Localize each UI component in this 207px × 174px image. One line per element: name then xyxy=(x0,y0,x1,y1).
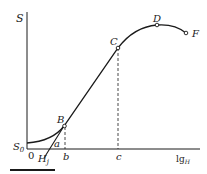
point-b-label: B xyxy=(56,114,64,125)
angle-a-label: a xyxy=(54,138,60,149)
tick-b-label: b xyxy=(63,151,69,162)
x-axis-label: lgH xyxy=(176,154,191,165)
point-f-marker xyxy=(184,31,188,35)
point-d-label: D xyxy=(152,13,161,24)
magnetization-diagram: S S0 0 Hj a b c B C D F lgH xyxy=(0,0,207,174)
footer-bar xyxy=(10,169,55,171)
s0-label: S0 xyxy=(13,141,25,154)
tick-c-label: c xyxy=(116,151,122,162)
characteristic-curve xyxy=(27,25,186,143)
point-c-label: C xyxy=(110,36,118,47)
point-f-label: F xyxy=(191,28,200,39)
origin-label: 0 xyxy=(28,150,34,161)
y-axis-label: S xyxy=(16,12,24,25)
hj-label: Hj xyxy=(37,153,50,166)
